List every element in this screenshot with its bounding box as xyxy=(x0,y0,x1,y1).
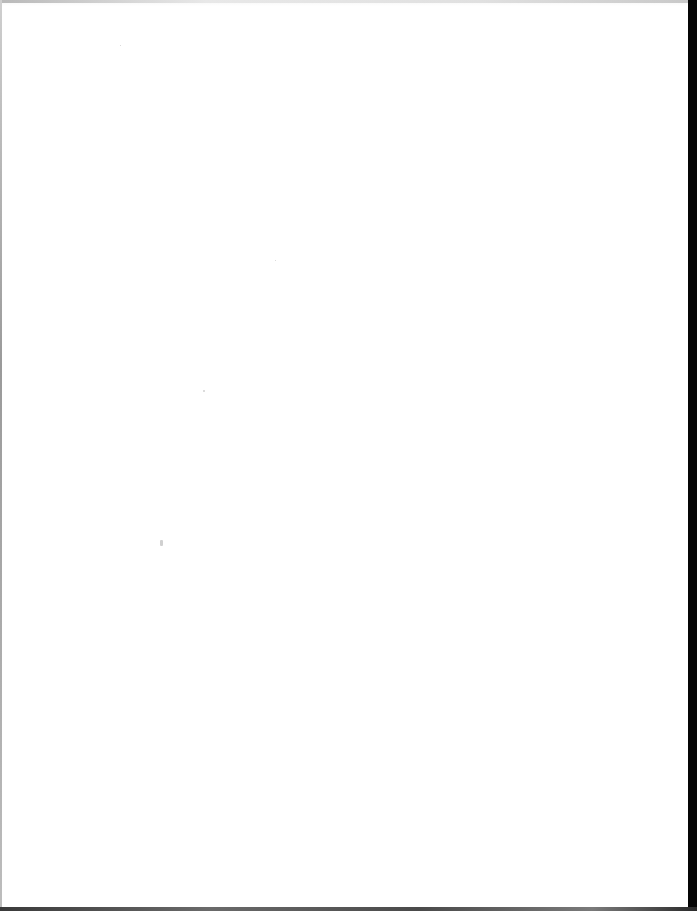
scan-noise-speck xyxy=(160,540,163,546)
scanned-page xyxy=(0,0,697,911)
page-left-edge xyxy=(0,0,2,911)
scan-noise-speck xyxy=(203,390,205,392)
scan-noise-speck xyxy=(120,45,121,46)
scan-noise-speck xyxy=(275,260,276,261)
scanner-bottom-shadow xyxy=(0,907,697,911)
blank-paper-sheet xyxy=(0,0,688,908)
page-top-edge xyxy=(0,0,688,3)
scanner-right-border xyxy=(688,0,697,911)
